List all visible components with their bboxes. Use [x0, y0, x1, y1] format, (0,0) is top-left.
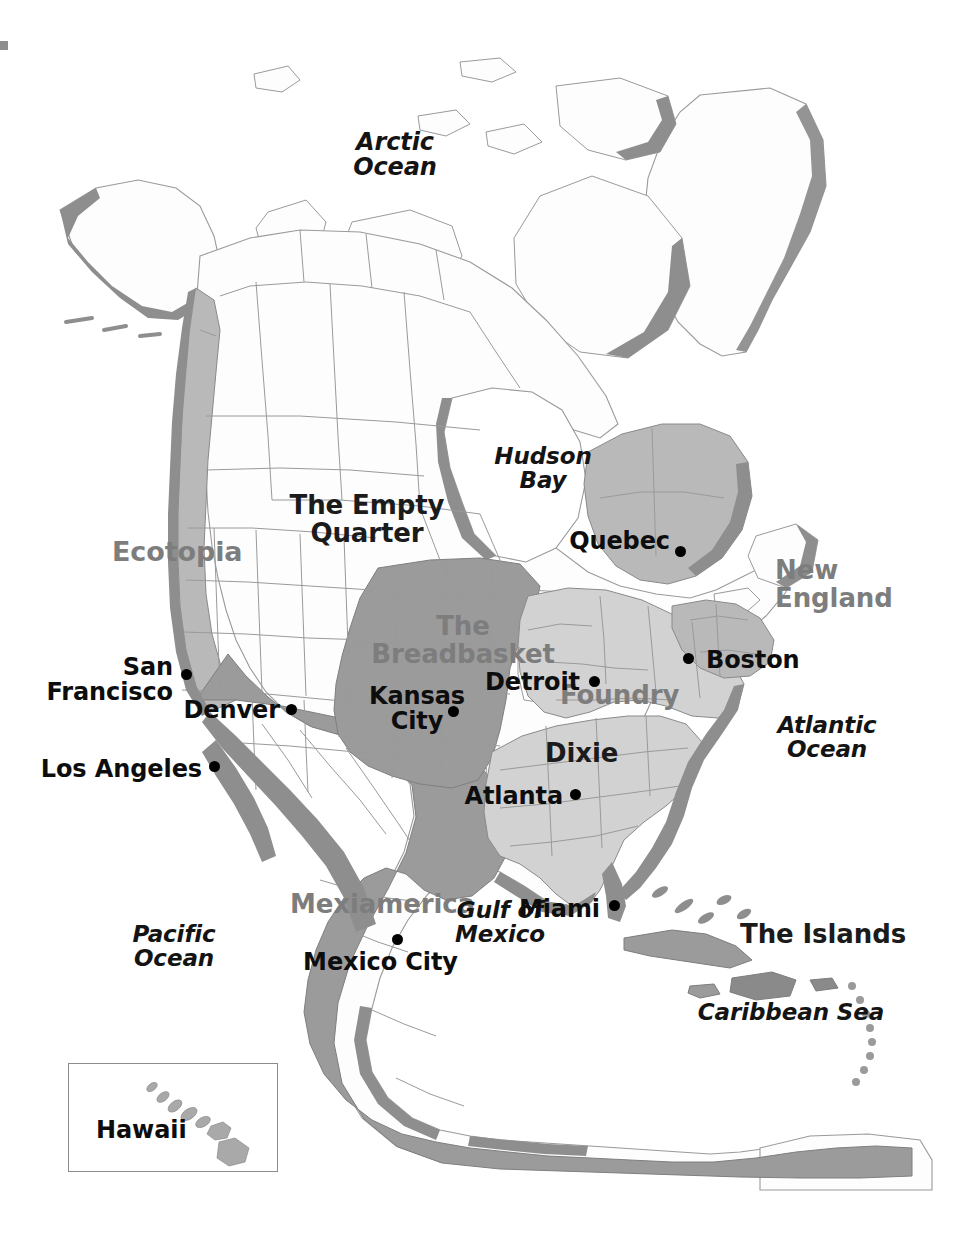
bahamas-islands — [650, 884, 753, 926]
arctic-islet-c — [418, 110, 470, 136]
aleutian-chain — [66, 318, 160, 336]
region-the-islands-fill[interactable] — [616, 922, 848, 1008]
florida-shadow — [602, 862, 626, 922]
hawaii-islands-geometry — [69, 1064, 277, 1171]
map-geometry — [0, 0, 960, 1239]
arctic-islet-d — [486, 124, 542, 154]
region-quebec-fill[interactable] — [584, 424, 752, 584]
lesser-antilles-arc — [848, 982, 876, 1086]
map-canvas: Hawaii Ecotopia The Empty Quarter The Br… — [0, 0, 960, 1239]
arctic-islet-b — [460, 58, 516, 82]
hawaii-inset-box — [68, 1063, 278, 1172]
arctic-islet-a — [254, 66, 300, 92]
